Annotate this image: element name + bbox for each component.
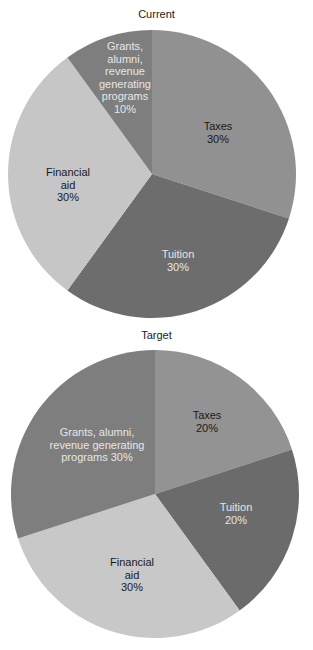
current-pie-chart [0,0,313,650]
current-taxes-label: Taxes 30% [204,120,233,145]
target-chart-title: Target [0,329,313,341]
target-financial-aid-label: Financial aid 30% [110,556,154,594]
target-grants-label: Grants, alumni, revenue generating progr… [50,426,145,464]
target-tuition-label: Tuition 20% [220,501,253,526]
target-taxes-label: Taxes 20% [193,409,222,434]
current-tuition-label: Tuition 30% [162,248,195,273]
current-financial-aid-label: Financial aid 30% [46,166,90,204]
current-grants-label: Grants, alumni, revenue generating progr… [99,40,151,115]
